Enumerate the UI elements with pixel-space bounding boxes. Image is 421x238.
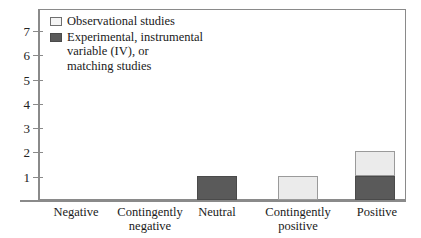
bar-group-neutral[interactable] (197, 176, 237, 200)
dark-square-icon (50, 33, 62, 42)
x-axis-line (20, 200, 406, 202)
y-tick-label-1: 1 (8, 171, 30, 184)
bar-segment (278, 176, 318, 200)
y-tick-label-3: 3 (8, 122, 30, 135)
y-tick-label-4: 4 (8, 98, 30, 111)
legend-item-experimental[interactable]: Experimental, instrumental variable (IV)… (50, 30, 203, 74)
bar-segment (197, 176, 237, 200)
light-square-icon (50, 17, 62, 26)
y-tick-label-7: 7 (8, 25, 30, 38)
y-tick-label-2: 2 (8, 146, 30, 159)
x-label-contingently-positive: Contingently positive (248, 205, 348, 233)
y-tick-label-5: 5 (8, 74, 30, 87)
legend-label-experimental: Experimental, instrumental variable (IV)… (67, 30, 203, 74)
x-label-positive: Positive (340, 205, 414, 219)
x-label-neutral: Neutral (180, 205, 254, 219)
bar-group-contingently-positive[interactable] (278, 176, 318, 200)
legend-label-observational: Observational studies (67, 14, 175, 29)
bar-group-positive[interactable] (355, 151, 395, 200)
y-tick-label-6: 6 (8, 49, 30, 62)
chart-legend: Observational studies Experimental, inst… (50, 14, 203, 74)
bar-chart: 7 6 5 4 3 2 1 Negative Contingently nega… (0, 0, 421, 238)
bar-segment (355, 176, 395, 200)
legend-item-observational[interactable]: Observational studies (50, 14, 203, 29)
bar-segment (355, 151, 395, 175)
